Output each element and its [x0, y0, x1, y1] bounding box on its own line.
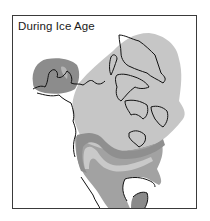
- map-frame: During Ice Age: [12, 15, 197, 209]
- north-america-ice-age-map: [12, 15, 197, 209]
- map-title: During Ice Age: [18, 20, 95, 32]
- alaska-region: [33, 58, 80, 94]
